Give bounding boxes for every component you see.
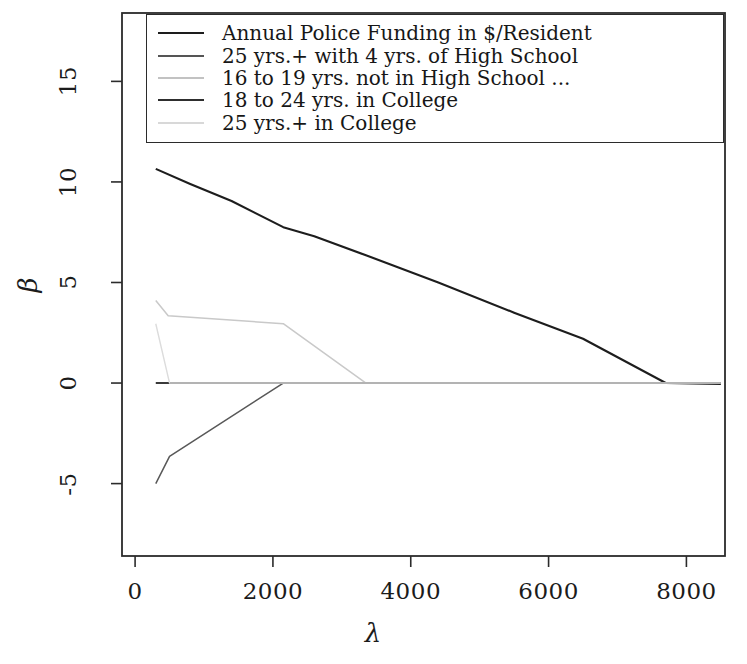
legend-item-3: 16 to 19 yrs. not in High School ... [158,67,718,89]
series-line-2 [156,383,721,484]
legend-item-5: 25 yrs.+ in College [158,112,718,134]
x-tick-label-0: 0 [128,578,143,604]
series-line-1 [156,169,721,384]
legend-item-label: 16 to 19 yrs. not in High School ... [222,67,570,89]
legend-item-2: 25 yrs.+ with 4 yrs. of High School [158,44,718,66]
x-axis-title: λ [365,618,381,648]
legend-item-label: Annual Police Funding in $/Resident [222,22,592,44]
x-tick-label-6000: 6000 [518,578,579,604]
figure-container: 02000400060008000 -5051015 λ β Annual Po… [0,0,747,664]
series-line-5 [156,324,721,383]
x-tick-label-4000: 4000 [380,578,441,604]
legend-line-swatch-icon [158,99,204,101]
legend-item-label: 25 yrs.+ in College [222,112,417,134]
legend-item-1: Annual Police Funding in $/Resident [158,22,718,44]
x-tick-label-2000: 2000 [243,578,304,604]
legend-items: Annual Police Funding in $/Resident25 yr… [158,22,718,134]
axis-ticks [111,81,686,567]
legend-item-label: 25 yrs.+ with 4 yrs. of High School [222,45,578,67]
y-tick-label-5: 5 [55,275,81,290]
legend-line-swatch-icon [158,77,204,79]
legend-item-4: 18 to 24 yrs. in College [158,89,718,111]
x-tick-label-8000: 8000 [656,578,717,604]
series-line-3 [156,301,721,383]
legend-line-swatch-icon [158,55,204,57]
legend-line-swatch-icon [158,122,204,124]
y-tick-label-15: 15 [55,66,81,96]
y-tick-label-10: 10 [55,167,81,197]
y-tick-label-0: 0 [55,375,81,390]
legend-line-swatch-icon [158,32,204,34]
legend-item-label: 18 to 24 yrs. in College [222,89,458,111]
y-tick-label-neg5: -5 [55,472,81,495]
data-series-group [156,169,721,484]
y-axis-title: β [13,277,43,292]
